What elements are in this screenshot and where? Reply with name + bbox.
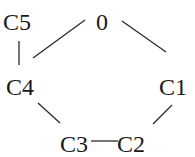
atom-o-label: 0 [96, 9, 108, 35]
atom-c5-label: C5 [3, 9, 31, 35]
atom-c4-label: C4 [6, 74, 34, 100]
bond-c2-c1 [153, 105, 172, 124]
bond-o-c1 [122, 21, 166, 52]
atom-c2-label: C2 [117, 131, 145, 157]
bond-c4-c3 [38, 103, 60, 123]
ring-diagram: C5 0 C4 C1 C3 C2 [0, 0, 195, 157]
bond-o-c4 [33, 20, 85, 58]
atom-c1-label: C1 [159, 74, 187, 100]
atom-c3-label: C3 [60, 131, 88, 157]
